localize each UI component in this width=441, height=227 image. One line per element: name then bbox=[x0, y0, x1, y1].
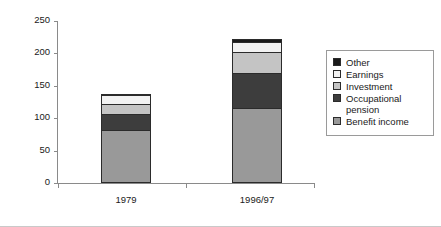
bar-segment bbox=[232, 42, 282, 52]
y-axis-tick-mark bbox=[54, 118, 58, 119]
plot-area: 050100150200250 19791996/97 bbox=[57, 21, 314, 184]
y-axis-tick-mark bbox=[54, 21, 58, 22]
bar-segment bbox=[101, 130, 151, 183]
legend-item-label: Occupational pension bbox=[346, 93, 401, 115]
legend-item[interactable]: Other bbox=[333, 57, 428, 68]
legend-item[interactable]: Occupational pension bbox=[333, 93, 428, 115]
legend-swatch-icon bbox=[333, 117, 341, 125]
bar-segment bbox=[101, 95, 151, 104]
legend-item-label: Investment bbox=[346, 81, 392, 92]
chart-legend: OtherEarningsInvestmentOccupational pens… bbox=[326, 50, 434, 136]
bar-segment bbox=[232, 108, 282, 183]
legend-item-label: Other bbox=[346, 57, 370, 68]
y-axis-tick-mark bbox=[54, 151, 58, 152]
legend-item[interactable]: Benefit income bbox=[333, 116, 428, 127]
bar-segment bbox=[101, 114, 151, 130]
y-axis-tick-label: 200 bbox=[34, 46, 50, 57]
bar-segment bbox=[232, 73, 282, 108]
x-axis-tick-label: 1979 bbox=[81, 194, 171, 205]
bar-column bbox=[101, 94, 151, 183]
y-axis-tick-label: 250 bbox=[34, 14, 50, 25]
x-axis-tick-mark bbox=[314, 183, 315, 188]
chart-figure: £ per week (2000/01 prices) 050100150200… bbox=[0, 0, 441, 227]
y-axis-tick-label: 0 bbox=[45, 176, 50, 187]
y-axis-tick-label: 100 bbox=[34, 111, 50, 122]
x-axis-tick-mark bbox=[186, 183, 187, 188]
y-axis-tick-mark bbox=[54, 86, 58, 87]
x-axis-tick-mark bbox=[58, 183, 59, 188]
legend-swatch-icon bbox=[333, 94, 341, 102]
legend-swatch-icon bbox=[333, 58, 341, 66]
bar-column bbox=[232, 39, 282, 183]
y-axis-tick-label: 150 bbox=[34, 79, 50, 90]
x-axis-tick-label: 1996/97 bbox=[212, 194, 302, 205]
legend-item[interactable]: Earnings bbox=[333, 69, 428, 80]
bar-segment bbox=[101, 104, 151, 114]
legend-swatch-icon bbox=[333, 70, 341, 78]
y-axis-tick-mark bbox=[54, 53, 58, 54]
bar-segment bbox=[232, 52, 282, 73]
legend-swatch-icon bbox=[333, 82, 341, 90]
legend-item-label: Earnings bbox=[346, 69, 384, 80]
figure-bottom-rule bbox=[0, 226, 441, 227]
y-axis-tick-label: 50 bbox=[39, 144, 50, 155]
legend-item-label: Benefit income bbox=[346, 116, 409, 127]
legend-item[interactable]: Investment bbox=[333, 81, 428, 92]
